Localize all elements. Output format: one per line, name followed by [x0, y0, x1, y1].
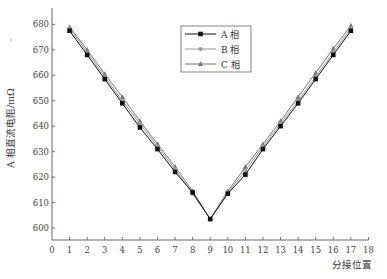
- y-axis-title: A 相直流电阻/mΩ: [5, 88, 16, 169]
- square-marker: [67, 28, 72, 33]
- square-marker: [226, 191, 231, 196]
- circle-marker: [198, 47, 202, 51]
- square-marker: [155, 147, 160, 152]
- x-tick-label: 11: [240, 245, 251, 255]
- legend-label: A 相: [220, 29, 239, 40]
- x-axis-title: 分接位置: [332, 259, 372, 270]
- legend-label: B 相: [221, 44, 239, 55]
- x-tick-label: 15: [310, 245, 321, 255]
- square-marker: [296, 101, 301, 106]
- square-marker: [173, 170, 178, 175]
- square-marker: [243, 172, 248, 177]
- square-marker: [349, 28, 354, 33]
- y-tick-label: 600: [33, 223, 49, 233]
- x-tick-label: 3: [102, 245, 107, 255]
- y-tick-label: 620: [33, 172, 49, 182]
- y-tick-label: 640: [33, 121, 49, 131]
- x-tick-label: 14: [293, 245, 304, 255]
- stray-mark: [10, 39, 11, 40]
- x-tick-label: 6: [155, 245, 160, 255]
- x-tick-label: 18: [363, 245, 374, 255]
- y-tick-label: 670: [33, 45, 49, 55]
- square-marker: [261, 147, 266, 152]
- square-marker: [313, 77, 318, 82]
- square-marker: [120, 101, 125, 106]
- x-tick-label: 7: [172, 245, 177, 255]
- x-tick-label: 10: [222, 245, 233, 255]
- x-tick-label: 0: [49, 245, 54, 255]
- y-tick-label: 660: [33, 70, 49, 80]
- x-tick-label: 9: [208, 245, 213, 255]
- y-tick-label: 650: [33, 96, 49, 106]
- square-marker: [278, 124, 283, 129]
- x-tick-label: 2: [84, 245, 89, 255]
- square-marker: [85, 53, 90, 58]
- x-tick-label: 12: [258, 245, 269, 255]
- square-marker: [208, 217, 213, 222]
- x-tick-label: 13: [275, 245, 286, 255]
- x-tick-label: 16: [328, 245, 339, 255]
- x-tick-label: 5: [137, 245, 142, 255]
- square-marker: [102, 77, 107, 82]
- x-tick-label: 8: [190, 245, 195, 255]
- line-chart: 6006106206306406506606706800123456789101…: [0, 0, 387, 279]
- y-tick-label: 630: [33, 147, 49, 157]
- legend: A 相B 相C 相: [181, 26, 251, 72]
- square-marker: [138, 125, 143, 130]
- legend-label: C 相: [221, 59, 240, 70]
- x-tick-label: 17: [345, 245, 356, 255]
- x-tick-label: 1: [67, 245, 72, 255]
- y-tick-label: 680: [33, 19, 49, 29]
- square-marker: [331, 53, 336, 58]
- square-marker: [190, 190, 195, 195]
- square-marker: [198, 32, 203, 37]
- y-tick-label: 610: [33, 198, 49, 208]
- x-tick-label: 4: [120, 245, 125, 255]
